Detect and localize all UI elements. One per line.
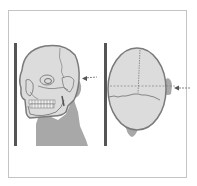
positioning-diagram — [0, 0, 197, 186]
central-ray-arrow-right — [174, 86, 190, 91]
superior-panel — [104, 43, 190, 146]
arrowhead-icon — [82, 76, 87, 81]
skull-superior — [108, 48, 166, 130]
teeth — [29, 100, 55, 108]
image-receptor-left — [14, 43, 17, 146]
central-ray-arrow-left — [82, 76, 97, 81]
lateral-panel — [14, 43, 97, 146]
image-receptor-right — [104, 43, 107, 146]
